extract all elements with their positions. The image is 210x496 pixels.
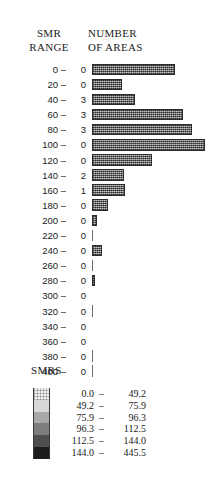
- legend-range-text: 112.5–144.0: [58, 435, 150, 447]
- legend-row: 75.9–96.3: [0, 412, 210, 424]
- row-area-count: 0: [72, 273, 86, 288]
- smr-histogram-figure: SMR RANGE NUMBER OF AREAS 0 –020 –040 –3…: [0, 0, 210, 496]
- bar-track: [92, 335, 208, 347]
- bar-track: [92, 109, 208, 121]
- row-range-label: 220 –: [14, 228, 66, 243]
- row-area-count: 0: [72, 288, 86, 303]
- legend-range-text: 49.2–75.9: [58, 400, 150, 412]
- row-area-count: 0: [72, 334, 86, 349]
- legend-range-low: 144.0: [58, 447, 94, 459]
- histogram-row: 300 –0: [0, 288, 210, 303]
- row-area-count: 3: [72, 122, 86, 137]
- histogram-row: 60 –3: [0, 107, 210, 122]
- legend-range-low: 0.0: [58, 388, 94, 400]
- legend-swatch: [33, 447, 50, 459]
- histogram-row: 240 –0: [0, 243, 210, 258]
- legend-range-low: 75.9: [58, 412, 94, 424]
- legend-range-dash: –: [97, 423, 106, 435]
- legend-range-dash: –: [97, 412, 106, 424]
- row-area-count: 0: [72, 243, 86, 258]
- legend-range-low: 49.2: [58, 400, 94, 412]
- histogram-row: 180 –0: [0, 198, 210, 213]
- histogram-row: 380 –0: [0, 349, 210, 364]
- histogram-row: 20 –0: [0, 77, 210, 92]
- row-area-count: 1: [72, 183, 86, 198]
- bar-track: [92, 64, 208, 76]
- row-range-label: 120 –: [14, 153, 66, 168]
- legend-range-low: 96.3: [58, 423, 94, 435]
- bar-track: [92, 290, 208, 302]
- histogram-bar: [92, 109, 183, 121]
- histogram-row: 140 –2: [0, 168, 210, 183]
- row-area-count: 0: [72, 62, 86, 77]
- row-area-count: 0: [72, 304, 86, 319]
- bar-track: [92, 215, 208, 227]
- legend-row: 49.2–75.9: [0, 400, 210, 412]
- legend-classes: 0.0–49.249.2–75.975.9–96.396.3–112.5112.…: [0, 388, 210, 459]
- histogram-row: 0 –0: [0, 62, 210, 77]
- header-smr-range-line2: RANGE: [14, 40, 84, 54]
- header-smr-range: SMR RANGE: [14, 26, 84, 54]
- row-range-label: 100 –: [14, 137, 66, 152]
- legend-range-text: 96.3–112.5: [58, 423, 150, 435]
- legend-swatch: [33, 388, 50, 400]
- histogram-bar: [92, 305, 93, 317]
- histogram-row: 100 –0: [0, 137, 210, 152]
- histogram-row: 40 –3: [0, 92, 210, 107]
- legend-range-high: 144.0: [108, 435, 146, 447]
- histogram-bar: [92, 365, 93, 377]
- row-range-label: 240 –: [14, 243, 66, 258]
- bar-track: [92, 169, 208, 181]
- legend-range-high: 75.9: [108, 400, 146, 412]
- histogram-bar: [92, 169, 124, 181]
- row-range-label: 140 –: [14, 168, 66, 183]
- row-range-label: 0 –: [14, 62, 66, 77]
- legend-title: SMRS: [31, 364, 62, 377]
- row-area-count: 0: [72, 213, 86, 228]
- row-area-count: 0: [72, 77, 86, 92]
- histogram-bar: [92, 199, 108, 211]
- histogram-bar: [92, 139, 205, 151]
- legend-swatch: [33, 423, 50, 435]
- row-range-label: 200 –: [14, 213, 66, 228]
- row-range-label: 60 –: [14, 107, 66, 122]
- bar-track: [92, 260, 208, 272]
- header-number-of-areas: NUMBER OF AREAS: [88, 26, 188, 54]
- row-range-label: 360 –: [14, 334, 66, 349]
- bar-track: [92, 230, 208, 242]
- histogram-bar: [92, 275, 95, 287]
- histogram-bar: [92, 184, 125, 196]
- row-range-label: 300 –: [14, 288, 66, 303]
- row-area-count: 0: [72, 153, 86, 168]
- histogram-row: 80 –3: [0, 122, 210, 137]
- legend-range-high: 445.5: [108, 447, 146, 459]
- row-area-count: 0: [72, 228, 86, 243]
- header-smr-range-line1: SMR: [14, 26, 84, 40]
- legend-range-text: 144.0–445.5: [58, 447, 150, 459]
- histogram-bar: [92, 124, 192, 136]
- bar-track: [92, 365, 208, 377]
- legend-range-dash: –: [97, 447, 106, 459]
- histogram-bar: [92, 79, 122, 91]
- legend-range-high: 49.2: [108, 388, 146, 400]
- bar-track: [92, 139, 208, 151]
- histogram-bar: [92, 94, 135, 106]
- histogram-row: 320 –0: [0, 304, 210, 319]
- bar-track: [92, 79, 208, 91]
- bar-track: [92, 184, 208, 196]
- bar-track: [92, 320, 208, 332]
- histogram-bar: [92, 154, 152, 166]
- row-area-count: 2: [72, 168, 86, 183]
- legend-swatch: [33, 400, 50, 412]
- bar-track: [92, 275, 208, 287]
- row-range-label: 40 –: [14, 92, 66, 107]
- histogram-row: 340 –0: [0, 319, 210, 334]
- legend-range-high: 96.3: [108, 412, 146, 424]
- bar-track: [92, 199, 208, 211]
- row-range-label: 180 –: [14, 198, 66, 213]
- legend-range-dash: –: [97, 400, 106, 412]
- row-area-count: 0: [72, 349, 86, 364]
- row-range-label: 260 –: [14, 258, 66, 273]
- row-range-label: 380 –: [14, 349, 66, 364]
- histogram-bar: [92, 64, 175, 76]
